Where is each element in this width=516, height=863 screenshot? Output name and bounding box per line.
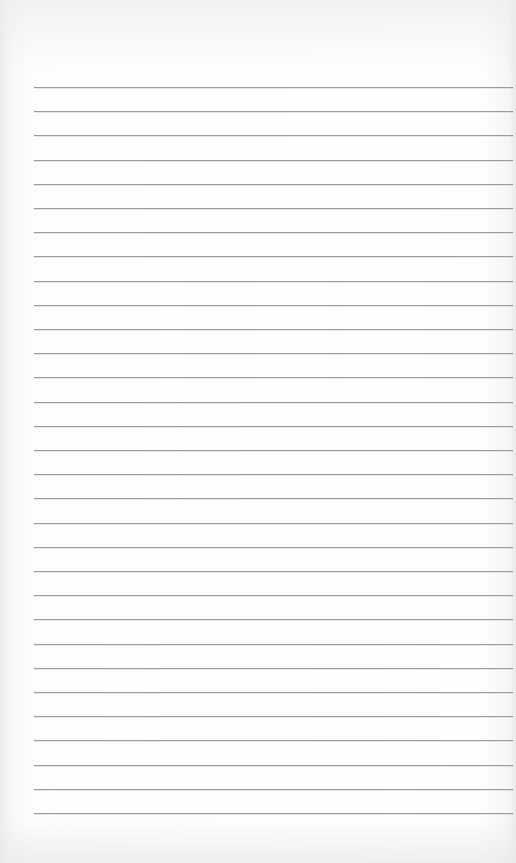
ruled-line: [34, 619, 513, 620]
ruled-line: [34, 571, 513, 572]
ruled-line: [34, 111, 513, 112]
ruled-line: [34, 523, 513, 524]
ruled-line: [34, 87, 513, 88]
ruled-line: [34, 305, 513, 306]
ruled-line: [34, 789, 513, 790]
ruled-line: [34, 208, 513, 209]
ruled-line: [34, 765, 513, 766]
ruled-line: [34, 692, 513, 693]
ruled-line: [34, 450, 513, 451]
ruled-line: [34, 813, 513, 814]
ruled-line: [34, 595, 513, 596]
ruled-line: [34, 135, 513, 136]
ruled-line: [34, 281, 513, 282]
ruled-line: [34, 474, 513, 475]
ruled-line: [34, 329, 513, 330]
ruled-line: [34, 160, 513, 161]
ruled-line: [34, 740, 513, 741]
ruled-line: [34, 353, 513, 354]
ruled-line: [34, 547, 513, 548]
ruled-line: [34, 184, 513, 185]
ruled-line: [34, 668, 513, 669]
lined-paper-page: [0, 0, 516, 863]
ruled-line: [34, 256, 513, 257]
ruled-line: [34, 402, 513, 403]
ruled-line: [34, 232, 513, 233]
ruled-line: [34, 644, 513, 645]
ruled-line: [34, 716, 513, 717]
ruled-line: [34, 377, 513, 378]
ruled-line: [34, 426, 513, 427]
ruled-line: [34, 498, 513, 499]
